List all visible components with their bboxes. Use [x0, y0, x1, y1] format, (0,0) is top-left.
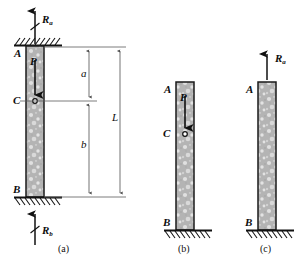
support-fixed-bottom-b — [164, 231, 212, 239]
reaction-label-ra-c: Ra — [275, 53, 286, 64]
reaction-arrow-rb-a — [31, 214, 40, 245]
point-label-b-b: B — [163, 217, 170, 228]
dimension-label-l: L — [112, 112, 118, 123]
panel-a — [14, 11, 126, 245]
point-label-a-c: A — [246, 84, 253, 95]
support-fixed-bottom-a — [14, 198, 62, 206]
point-label-c-a: C — [13, 95, 20, 106]
point-c-marker-b — [183, 132, 188, 137]
bar-c — [258, 82, 276, 230]
reaction-arrow-ra-a — [31, 11, 40, 44]
point-label-c-b: C — [163, 128, 170, 139]
reaction-label-ra-a: Ra — [42, 14, 53, 25]
point-label-b-a: B — [13, 184, 20, 195]
dimension-label-b: b — [81, 139, 87, 150]
caption-panel-c: (c) — [260, 243, 271, 254]
support-fixed-bottom-c — [246, 231, 294, 239]
point-label-a-b: A — [164, 84, 171, 95]
dimension-label-a: a — [81, 68, 87, 79]
point-label-a-a: A — [14, 48, 21, 59]
panel-b — [164, 82, 212, 238]
point-label-b-c: B — [245, 217, 252, 228]
load-label-p-b: P — [180, 92, 187, 103]
support-fixed-top-a — [14, 38, 62, 46]
panel-c — [246, 54, 294, 238]
load-label-p-a: P — [30, 56, 37, 67]
caption-panel-b: (b) — [178, 243, 190, 254]
caption-panel-a: (a) — [58, 243, 69, 254]
figure-canvas: Ra A P C B Rb a b L (a) A P C B (b) Ra A… — [0, 0, 308, 269]
reaction-label-rb-a: Rb — [42, 225, 53, 236]
